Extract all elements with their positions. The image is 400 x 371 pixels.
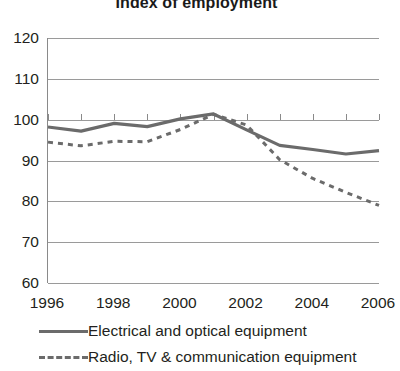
legend-solid-line-icon xyxy=(39,325,88,337)
y-axis-tick-label: 70 xyxy=(0,234,39,250)
y-axis-tick-label: 80 xyxy=(0,193,39,209)
x-axis-tick-label: 1998 xyxy=(83,295,143,311)
y-axis-tick-label: 60 xyxy=(0,275,39,291)
y-axis-tick-label: 110 xyxy=(0,71,39,87)
y-axis-tick-label: 120 xyxy=(0,30,39,46)
legend-dashed-line-icon xyxy=(39,351,88,363)
x-axis-tick-label: 2004 xyxy=(282,295,342,311)
legend-item-label: Electrical and optical equipment xyxy=(88,323,307,339)
x-axis-tick-label: 2006 xyxy=(348,295,400,311)
series-line xyxy=(48,114,379,154)
x-axis-tick xyxy=(379,114,380,120)
series-lines xyxy=(48,38,379,283)
legend-item[interactable]: Radio, TV & communication equipment xyxy=(0,345,393,369)
x-axis-tick-label: 1996 xyxy=(17,295,77,311)
y-axis-tick-label: 100 xyxy=(0,112,39,128)
plot-area xyxy=(47,38,378,283)
y-axis-tick-label: 90 xyxy=(0,153,39,169)
x-axis-tick-label: 2000 xyxy=(149,295,209,311)
legend-item-label: Radio, TV & communication equipment xyxy=(88,349,357,365)
gridline xyxy=(48,283,379,284)
chart-title: Index of employment xyxy=(0,0,393,12)
legend-item[interactable]: Electrical and optical equipment xyxy=(0,319,393,343)
x-axis-tick-label: 2002 xyxy=(216,295,276,311)
